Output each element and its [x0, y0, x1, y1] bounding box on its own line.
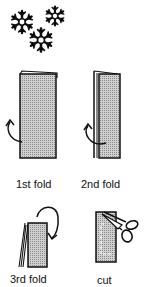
- snowflakes-illustration: [0, 0, 75, 60]
- paper-sheet: [99, 74, 120, 158]
- step-label-fold1: 1st fold: [16, 178, 51, 190]
- step-label-fold2: 2nd fold: [81, 178, 120, 190]
- step-cut-illustration: [92, 208, 147, 273]
- paper-sheet: [28, 223, 47, 267]
- snowflake-icon: [46, 6, 64, 25]
- paper-sheet: [20, 74, 56, 158]
- snowflake-icon: [12, 11, 32, 33]
- step-label-cut: cut: [97, 274, 112, 286]
- step-label-fold3: 3rd fold: [10, 273, 47, 285]
- step-fold1-illustration: [0, 70, 60, 160]
- step-fold3-illustration: [12, 205, 67, 270]
- snowflake-icon: [30, 29, 51, 52]
- step-fold2-illustration: [78, 70, 138, 160]
